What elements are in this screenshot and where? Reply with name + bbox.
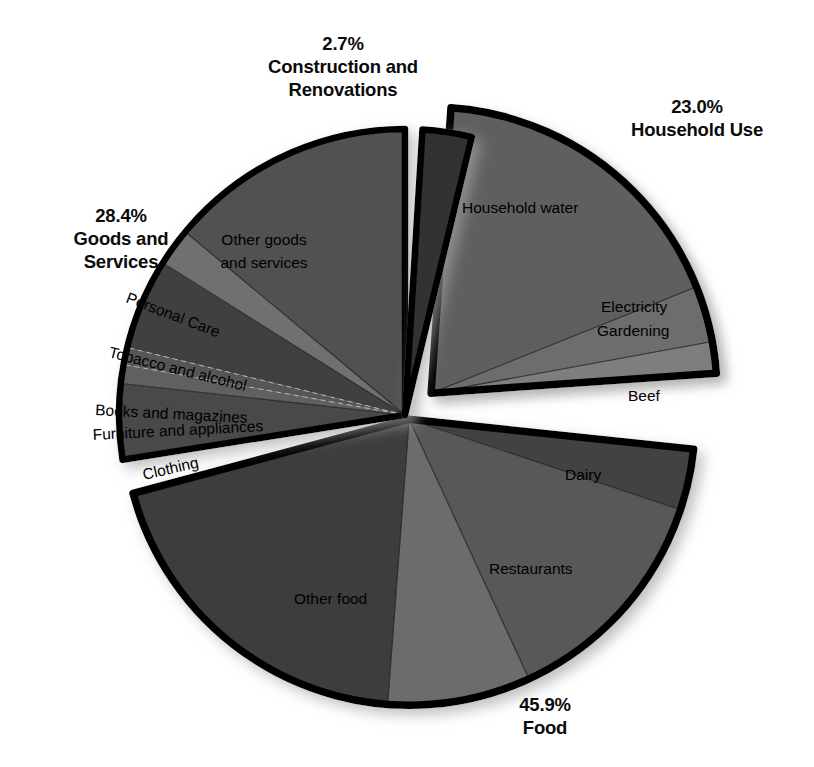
slice-label-restaurants: Restaurants bbox=[489, 560, 573, 577]
slice-label-household-water: Household water bbox=[462, 199, 578, 216]
slice-label-gardening: Gardening bbox=[597, 322, 669, 339]
callout-percent: 23.0% bbox=[671, 96, 722, 117]
group-callout-goods: 28.4%Goods andServices bbox=[74, 205, 169, 272]
callout-name: Household Use bbox=[631, 119, 763, 140]
callout-name: Services bbox=[84, 251, 159, 272]
callout-name: Food bbox=[523, 717, 567, 738]
group-callout-household: 23.0%Household Use bbox=[631, 96, 763, 140]
group-callout-food: 45.9%Food bbox=[519, 694, 570, 738]
callout-name: Construction and bbox=[268, 56, 418, 77]
pie-group-household-use[interactable] bbox=[431, 108, 716, 393]
slice-label-electricity: Electricity bbox=[601, 298, 668, 315]
pie-group-food[interactable] bbox=[133, 419, 694, 705]
callout-percent: 2.7% bbox=[322, 33, 363, 54]
slice-label-beef: Beef bbox=[628, 387, 661, 404]
callout-name: Renovations bbox=[289, 79, 398, 100]
slice-label-other-goods-2: and services bbox=[220, 254, 307, 271]
group-callout-construction: 2.7%Construction andRenovations bbox=[268, 33, 418, 100]
callout-percent: 45.9% bbox=[519, 694, 570, 715]
slice-label-dairy: Dairy bbox=[565, 466, 601, 483]
pie-chart-figure: Household waterElectricityGardeningBeefD… bbox=[0, 0, 814, 767]
callout-percent: 28.4% bbox=[95, 205, 146, 226]
slice-label-other-food: Other food bbox=[294, 590, 367, 607]
pie-chart-canvas: Household waterElectricityGardeningBeefD… bbox=[0, 0, 814, 767]
callout-name: Goods and bbox=[74, 228, 169, 249]
slice-label-other-goods: Other goods bbox=[221, 231, 307, 248]
